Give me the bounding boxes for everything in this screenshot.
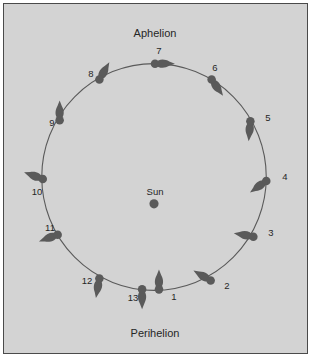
sun-label: Sun (147, 187, 164, 197)
planet-marker-4 (248, 177, 271, 196)
sun-marker (149, 199, 158, 208)
planet-dot-6 (207, 75, 216, 84)
orbit-path (42, 64, 267, 291)
perihelion-label: Perihelion (131, 328, 180, 339)
planet-dot-2 (206, 276, 215, 285)
position-label-13: 13 (128, 293, 139, 303)
position-label-7: 7 (156, 46, 161, 56)
position-label-8: 8 (88, 69, 93, 79)
position-label-11: 11 (45, 223, 55, 233)
orbit-diagram-svg (4, 4, 307, 353)
position-label-10: 10 (32, 187, 43, 197)
diagram-frame: Aphelion Perihelion Sun 1234567891011121… (3, 3, 308, 354)
planet-dot-1 (155, 285, 164, 294)
planet-dot-12 (95, 274, 104, 283)
planet-dot-10 (38, 175, 47, 184)
planet-marker-10 (23, 168, 47, 183)
orbit-ellipse-layer (42, 64, 267, 291)
planet-marker-5 (245, 117, 255, 141)
planet-dot-9 (55, 116, 64, 125)
planet-marker-9 (55, 100, 64, 124)
planet-marker-13 (138, 285, 147, 309)
planet-dot-13 (138, 285, 147, 294)
figure-canvas: Aphelion Perihelion Sun 1234567891011121… (0, 0, 314, 360)
aphelion-label: Aphelion (134, 28, 177, 39)
planet-marker-12 (92, 274, 104, 299)
position-label-6: 6 (212, 63, 217, 73)
planet-dot-7 (151, 59, 160, 68)
position-label-1: 1 (171, 292, 176, 302)
planet-dot-8 (95, 75, 104, 84)
planet-marker-1 (155, 269, 164, 293)
position-label-4: 4 (282, 172, 287, 182)
position-label-5: 5 (265, 113, 270, 123)
planet-marker-7 (151, 59, 175, 68)
planet-dot-4 (262, 177, 271, 186)
sun-layer (149, 199, 158, 208)
position-label-2: 2 (224, 281, 229, 291)
position-label-12: 12 (82, 276, 93, 286)
planet-dot-3 (249, 232, 258, 241)
position-label-3: 3 (268, 228, 273, 238)
planet-marker-3 (233, 229, 258, 241)
planet-marker-6 (207, 75, 226, 98)
position-label-9: 9 (49, 118, 54, 128)
planet-dot-5 (246, 117, 255, 126)
